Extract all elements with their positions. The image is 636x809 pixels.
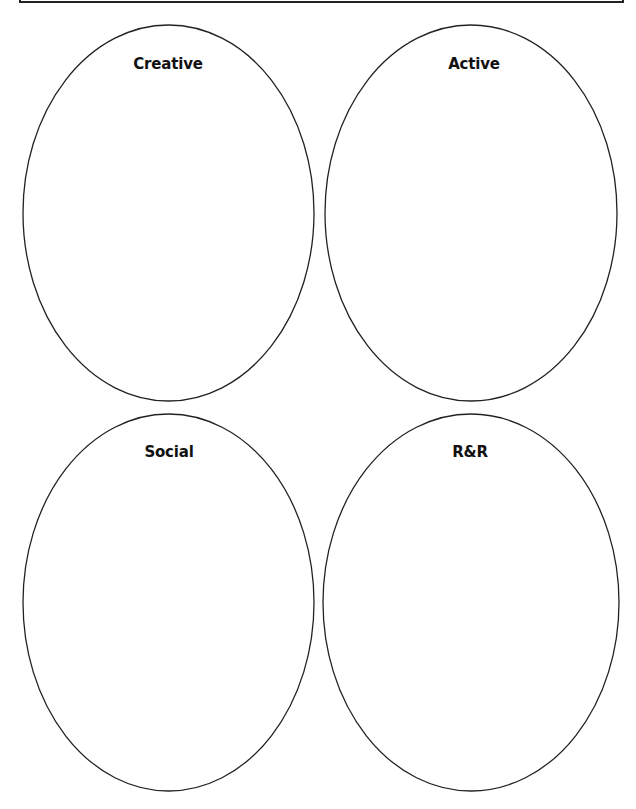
rr-ellipse [323,414,619,791]
active-label: Active [448,55,500,73]
active-ellipse [325,25,617,401]
social-label: Social [144,443,193,461]
social-ellipse [23,414,314,791]
rr-label: R&R [452,443,488,461]
diagram-canvas [0,0,636,809]
creative-ellipse [23,25,314,401]
creative-label: Creative [133,55,202,73]
